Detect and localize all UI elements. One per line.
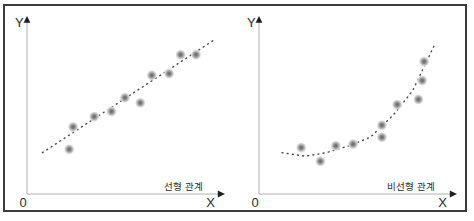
data-point [348, 139, 359, 150]
data-point [377, 120, 388, 131]
y-axis-label: Y [15, 15, 24, 30]
trend-line [282, 43, 436, 157]
data-point [120, 92, 131, 103]
y-axis-arrow-icon [256, 16, 263, 23]
data-point [392, 99, 403, 110]
plot-layer [42, 39, 215, 154]
origin-label: 0 [251, 195, 258, 210]
data-point [68, 122, 79, 133]
nonlinear-scatter-panel: Y X 0 비선형 관계 [236, 5, 468, 212]
data-point [164, 68, 175, 79]
x-axis-arrow-icon [450, 191, 457, 198]
data-point [413, 94, 424, 105]
data-point [147, 70, 158, 81]
plot-layer [282, 43, 436, 167]
x-axis-label: X [206, 195, 215, 210]
panel-caption: 비선형 관계 [387, 181, 435, 192]
data-point [191, 49, 202, 60]
origin-label: 0 [19, 195, 26, 210]
data-point [419, 56, 430, 67]
data-point [315, 156, 326, 167]
data-point [417, 75, 428, 86]
panel-caption: 선형 관계 [164, 181, 203, 192]
data-point [89, 111, 100, 122]
data-point [377, 132, 388, 143]
y-axis-label: Y [247, 15, 256, 30]
linear-scatter-panel: Y X 0 선형 관계 [4, 5, 236, 212]
data-point [175, 49, 186, 60]
data-point [296, 142, 307, 153]
data-point [106, 106, 117, 117]
x-axis-label: X [438, 195, 447, 210]
data-point [331, 141, 342, 152]
x-axis-arrow-icon [218, 191, 225, 198]
data-point [135, 98, 146, 109]
figure: Y X 0 선형 관계 Y X 0 비선형 관계 [0, 0, 474, 221]
data-point [64, 144, 75, 155]
y-axis-arrow-icon [24, 16, 31, 23]
